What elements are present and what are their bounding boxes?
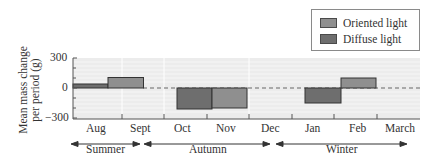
bar-nov-oriented bbox=[212, 88, 247, 108]
bar-oct-diffuse bbox=[177, 88, 212, 109]
x-label-oct: Oct bbox=[174, 122, 191, 134]
bar-jan-diffuse bbox=[305, 88, 341, 103]
season-label-winter: Winter bbox=[326, 143, 357, 155]
bar-sept-oriented bbox=[108, 78, 144, 89]
x-label-nov: Nov bbox=[216, 122, 236, 134]
x-label-feb: Feb bbox=[349, 122, 366, 134]
y-tick-minus-300: −300 bbox=[45, 111, 69, 123]
bar-aug-diffuse bbox=[73, 84, 108, 88]
y-tick-300: 300 bbox=[50, 51, 67, 63]
x-label-dec: Dec bbox=[261, 122, 280, 134]
x-label-march: March bbox=[385, 122, 415, 134]
season-label-autumn: Autumn bbox=[189, 143, 227, 155]
x-label-jan: Jan bbox=[305, 122, 320, 134]
season-label-summer: Summer bbox=[86, 143, 125, 155]
y-tick-0: 0 bbox=[62, 81, 68, 93]
bar-feb-oriented bbox=[341, 78, 376, 88]
x-label-sept: Sept bbox=[130, 122, 150, 134]
x-label-aug: Aug bbox=[86, 122, 106, 134]
